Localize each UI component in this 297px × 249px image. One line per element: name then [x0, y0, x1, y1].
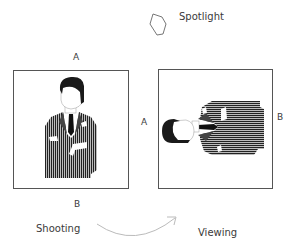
- label-a-left: A: [141, 118, 147, 127]
- spotlight-label: Spotlight: [179, 12, 224, 22]
- shooting-label: Shooting: [36, 224, 80, 234]
- label-b-bottom: B: [74, 200, 80, 209]
- label-b-right: B: [277, 113, 283, 122]
- curved-arrow-icon: [95, 210, 185, 246]
- businessman-upright-figure: [13, 70, 129, 189]
- spotlight-icon: [148, 12, 172, 38]
- businessman-rotated-figure: [158, 69, 273, 189]
- label-a-top: A: [73, 53, 79, 62]
- viewing-label: Viewing: [198, 228, 237, 238]
